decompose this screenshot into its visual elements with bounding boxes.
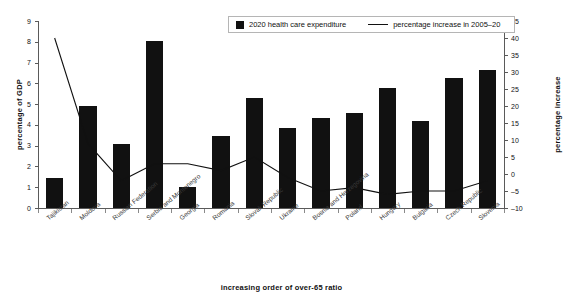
y-axis-right-tick-label: 15 — [511, 120, 531, 127]
x-axis-tick — [471, 209, 472, 213]
x-axis-tick — [38, 209, 39, 213]
y-axis-right-tick-label: 0 — [511, 171, 531, 178]
filled-square-icon — [236, 21, 244, 29]
x-axis-tick — [371, 209, 372, 213]
chart-legend: 2020 health care expenditure percentage … — [228, 16, 515, 33]
x-axis-tick — [504, 209, 505, 213]
x-axis-tick — [271, 209, 272, 213]
y-axis-right-line — [504, 21, 505, 209]
y-axis-right-tick — [505, 191, 508, 192]
y-axis-left-tick-label: 4 — [13, 121, 31, 128]
y-axis-right-tick-label: 40 — [511, 35, 531, 42]
y-axis-right-tick — [505, 140, 508, 141]
y-axis-right-tick — [505, 72, 508, 73]
percentage-increase-line — [55, 38, 488, 194]
y-axis-left-tick-label: 7 — [13, 59, 31, 66]
y-axis-right-tick-label: 20 — [511, 103, 531, 110]
x-axis-tick — [105, 209, 106, 213]
x-axis-tick — [404, 209, 405, 213]
y-axis-right-tick-label: 30 — [511, 69, 531, 76]
y-axis-left-tick-label: 2 — [13, 163, 31, 170]
x-axis-tick — [304, 209, 305, 213]
y-axis-left-tick-label: 9 — [13, 18, 31, 25]
y-axis-left-tick-label: 0 — [13, 205, 31, 212]
y-axis-right-tick-label: 5 — [511, 154, 531, 161]
y-axis-right-tick — [505, 89, 508, 90]
y-axis-left-tick-label: 8 — [13, 38, 31, 45]
legend-line-label: percentage increase in 2005–20 — [393, 20, 500, 29]
y-axis-right-tick-label: 35 — [511, 52, 531, 59]
y-axis-right-tick — [505, 106, 508, 107]
y-axis-right-tick — [505, 55, 508, 56]
x-axis-tick — [204, 209, 205, 213]
line-series — [38, 21, 504, 208]
y-axis-right-tick-label: 10 — [511, 137, 531, 144]
x-axis-tick — [171, 209, 172, 213]
x-axis-title: increasing order of over-65 ratio — [0, 283, 563, 292]
y-axis-left-tick-label: 3 — [13, 142, 31, 149]
x-axis-tick — [71, 209, 72, 213]
y-axis-left-tick-label: 6 — [13, 80, 31, 87]
legend-bar-label: 2020 health care expenditure — [249, 20, 346, 29]
plot-area — [38, 21, 504, 208]
y-axis-left-tick-label: 1 — [13, 184, 31, 191]
y-axis-right-tick — [505, 174, 508, 175]
x-axis-tick — [437, 209, 438, 213]
line-segment-icon — [368, 24, 388, 25]
chart-container: percentage of GDP percentage increase in… — [0, 0, 563, 300]
y-axis-right-tick-label: –10 — [511, 205, 531, 212]
y-axis-right-tick-label: –5 — [511, 188, 531, 195]
y-axis-right-tick-label: 25 — [511, 86, 531, 93]
y-axis-right-tick — [505, 208, 508, 209]
y-axis-right-tick — [505, 157, 508, 158]
y-axis-left-tick-label: 5 — [13, 101, 31, 108]
y-axis-right-tick — [505, 123, 508, 124]
x-axis-tick — [338, 209, 339, 213]
y-axis-right-tick — [505, 38, 508, 39]
y-axis-right-title: percentage increase — [553, 70, 562, 160]
x-axis-tick — [238, 209, 239, 213]
x-axis-tick — [138, 209, 139, 213]
